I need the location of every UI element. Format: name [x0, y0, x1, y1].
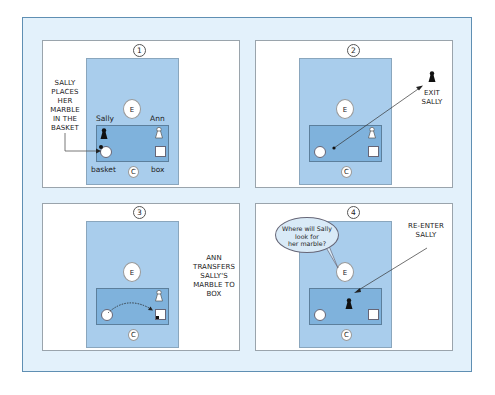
- panel-4: 4 E C Where will Sally look for her marb…: [255, 203, 453, 351]
- caption-4: RE-ENTER SALLY: [404, 222, 448, 240]
- room: E C: [86, 221, 179, 348]
- experimenter-head: E: [123, 262, 141, 282]
- panel-3: 3 E C ANN TRANSFERS SALLY'S MARBLE TO BO…: [42, 203, 240, 351]
- caption-line: TRANSFERS: [188, 263, 240, 272]
- caption-line: PLACES: [46, 88, 84, 97]
- caption-3: ANN TRANSFERS SALLY'S MARBLE TO BOX: [188, 254, 240, 299]
- caption-line: SALLY: [46, 79, 84, 88]
- caption-line: SALLY'S: [188, 272, 240, 281]
- question-bubble: Where will Sally look for her marble?: [275, 217, 339, 253]
- label-box: box: [151, 165, 165, 174]
- label-sally: Sally: [96, 114, 114, 123]
- caption-line: ANN: [188, 254, 240, 263]
- question-line: look for: [276, 233, 338, 241]
- transfer-arrow-icon: [97, 289, 170, 326]
- panel-1: 1 E C Sally Ann basket box SALLY PLACES …: [42, 40, 240, 188]
- child-head: C: [128, 166, 139, 178]
- caption-line: BASKET: [46, 124, 84, 133]
- question-line: her marble?: [276, 240, 338, 248]
- caption-line: IN THE: [46, 115, 84, 124]
- exit-arrow-icon: [256, 41, 454, 189]
- sally-figure-icon: [428, 71, 436, 83]
- caption-line: EXIT: [414, 89, 450, 98]
- caption-line: SALLY: [404, 231, 448, 240]
- experimenter-head: E: [123, 99, 141, 119]
- caption-2: EXIT SALLY: [414, 89, 450, 107]
- question-line: Where will Sally: [276, 225, 338, 233]
- caption-line: MARBLE: [46, 106, 84, 115]
- caption-line: HER: [46, 97, 84, 106]
- caption-line: BOX: [188, 290, 240, 299]
- label-ann: Ann: [150, 114, 165, 123]
- caption-line: SALLY: [414, 98, 450, 107]
- caption-1: SALLY PLACES HER MARBLE IN THE BASKET: [46, 79, 84, 133]
- caption-line: MARBLE TO: [188, 281, 240, 290]
- table: [96, 288, 169, 325]
- arrow-to-basket-icon: [63, 133, 123, 173]
- box: [155, 146, 166, 157]
- step-number-3: 3: [133, 206, 146, 219]
- panel-2: 2 E C EXIT SALLY: [255, 40, 453, 188]
- child-head: C: [128, 329, 139, 341]
- step-number-1: 1: [133, 44, 146, 57]
- caption-line: RE-ENTER: [404, 222, 448, 231]
- ann-figure-icon: [155, 127, 163, 139]
